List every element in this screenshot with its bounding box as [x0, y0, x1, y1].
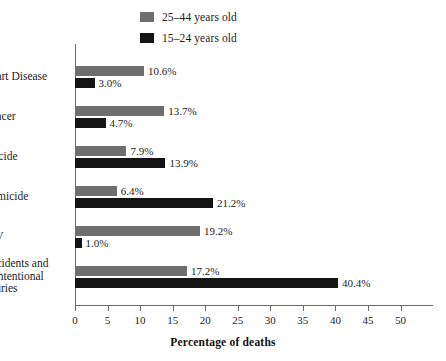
x-tick-20: [205, 305, 206, 311]
x-tick-40: [335, 305, 336, 311]
bar-25-44-5: [75, 266, 187, 276]
x-tick-label-30: 30: [258, 314, 282, 326]
bar-value-label-25-44-4: 19.2%: [204, 226, 232, 237]
bar-value-label-25-44-2: 7.9%: [130, 146, 153, 157]
bar-value-label-25-44-1: 13.7%: [168, 106, 196, 117]
bar-15-24-1: [75, 118, 106, 128]
category-label-1: Cancer: [0, 110, 73, 123]
category-label-line: unintentional: [0, 270, 73, 283]
bar-15-24-5: [75, 278, 338, 288]
x-tick-label-40: 40: [323, 314, 347, 326]
x-tick-35: [303, 305, 304, 311]
bar-15-24-3: [75, 198, 213, 208]
bar-value-label-15-24-4: 1.0%: [86, 238, 109, 249]
category-label-line: HIV: [0, 230, 73, 243]
x-tick-10: [140, 305, 141, 311]
bar-25-44-3: [75, 186, 117, 196]
bar-25-44-1: [75, 106, 164, 116]
category-label-line: Cancer: [0, 110, 73, 123]
bar-value-label-15-24-1: 4.7%: [110, 118, 133, 129]
x-tick-0: [75, 305, 76, 311]
x-tick-45: [368, 305, 369, 311]
grouped-bar-chart: 25–44 years old 15–24 years old 05101520…: [0, 0, 446, 361]
x-tick-label-25: 25: [226, 314, 250, 326]
category-label-line: Homicide: [0, 190, 73, 203]
bar-value-label-25-44-5: 17.2%: [191, 266, 219, 277]
x-tick-label-15: 15: [161, 314, 185, 326]
bar-25-44-2: [75, 146, 126, 156]
x-tick-label-20: 20: [193, 314, 217, 326]
x-tick-5: [108, 305, 109, 311]
category-label-2: Suicide: [0, 150, 73, 163]
category-label-5: Accidents andunintentionalinjuries: [0, 257, 73, 295]
bar-value-label-25-44-3: 6.4%: [121, 186, 144, 197]
x-tick-label-50: 50: [389, 314, 413, 326]
bar-25-44-0: [75, 66, 144, 76]
bar-value-label-15-24-5: 40.4%: [342, 278, 370, 289]
x-tick-label-10: 10: [128, 314, 152, 326]
category-label-4: HIV: [0, 230, 73, 243]
x-tick-25: [238, 305, 239, 311]
category-label-0: Heart Disease: [0, 70, 73, 83]
x-tick-label-5: 5: [96, 314, 120, 326]
x-tick-15: [173, 305, 174, 311]
category-label-3: Homicide: [0, 190, 73, 203]
category-label-line: Suicide: [0, 150, 73, 163]
x-tick-label-45: 45: [356, 314, 380, 326]
bar-15-24-2: [75, 158, 165, 168]
category-label-line: injuries: [0, 282, 73, 295]
x-tick-label-0: 0: [63, 314, 87, 326]
bar-value-label-15-24-2: 13.9%: [169, 158, 197, 169]
category-label-line: Heart Disease: [0, 70, 73, 83]
plot-area: 05101520253035404550 Heart DiseaseCancer…: [0, 0, 446, 361]
x-axis-title: Percentage of deaths: [0, 336, 446, 348]
x-tick-50: [401, 305, 402, 311]
bar-value-label-25-44-0: 10.6%: [148, 66, 176, 77]
bar-value-label-15-24-3: 21.2%: [217, 198, 245, 209]
x-axis-line: [75, 305, 433, 306]
x-tick-label-35: 35: [291, 314, 315, 326]
x-tick-30: [270, 305, 271, 311]
bar-15-24-0: [75, 78, 95, 88]
bar-15-24-4: [75, 238, 82, 248]
category-label-line: Accidents and: [0, 257, 73, 270]
bar-value-label-15-24-0: 3.0%: [99, 78, 122, 89]
bar-25-44-4: [75, 226, 200, 236]
